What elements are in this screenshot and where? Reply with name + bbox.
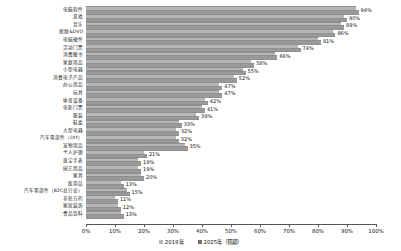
x-tick bbox=[231, 224, 232, 227]
bar-group: 42% bbox=[86, 97, 376, 105]
bar-row: 园艺用品19% bbox=[86, 165, 376, 173]
bar-row: 个人护理21% bbox=[86, 150, 376, 158]
category-label: 大型电器 bbox=[63, 128, 83, 133]
bar-row: 消费电子产品52% bbox=[86, 74, 376, 82]
category-label: 电影门票 bbox=[63, 106, 83, 111]
bar-row: 非处方药11% bbox=[86, 195, 376, 203]
category-label: 小型电器 bbox=[63, 68, 83, 73]
value-label: 86% bbox=[337, 31, 348, 36]
x-tick bbox=[289, 224, 290, 227]
bar-row: 汽车零部件（DIY）32% bbox=[86, 135, 376, 143]
bar-group: 35% bbox=[86, 142, 376, 150]
bar-group: 74% bbox=[86, 44, 376, 52]
bar-row: 电脑硬件81% bbox=[86, 36, 376, 44]
value-label: 21% bbox=[149, 152, 160, 157]
category-label: 家具 bbox=[73, 174, 83, 179]
x-tick-label: 50% bbox=[225, 228, 237, 234]
plot-area: 电脑软件94%游戏90%音乐89%视频&DVD86%电脑硬件81%活动门票74%… bbox=[86, 6, 376, 218]
bar-group: 15% bbox=[86, 188, 376, 196]
bar-row: 家庭用品58% bbox=[86, 59, 376, 67]
value-label: 39% bbox=[201, 114, 212, 119]
bar-group: 19% bbox=[86, 157, 376, 165]
value-label: 15% bbox=[132, 190, 143, 195]
bar-group: 19% bbox=[86, 165, 376, 173]
x-tick bbox=[86, 224, 87, 227]
value-label: 35% bbox=[190, 144, 201, 149]
category-label: 玩具 bbox=[73, 91, 83, 96]
category-label: 个人护理 bbox=[63, 151, 83, 156]
category-label: 食品饮料 bbox=[63, 212, 83, 217]
bar-group: 52% bbox=[86, 74, 376, 82]
x-tick bbox=[347, 224, 348, 227]
bar-group: 13% bbox=[86, 210, 376, 218]
bar-group: 81% bbox=[86, 36, 376, 44]
value-label: 47% bbox=[224, 84, 235, 89]
x-tick-label: 0% bbox=[82, 228, 91, 234]
category-label: 体育设备 bbox=[63, 98, 83, 103]
bar-group: 33% bbox=[86, 119, 376, 127]
value-label: 13% bbox=[126, 182, 137, 187]
category-label: 非处方药 bbox=[63, 197, 83, 202]
value-label: 32% bbox=[181, 137, 192, 142]
category-label: 汽车零部件（B2C总行业） bbox=[24, 189, 83, 194]
value-label: 66% bbox=[279, 54, 290, 59]
x-tick-label: 60% bbox=[254, 228, 266, 234]
bar-row: 游戏90% bbox=[86, 14, 376, 22]
bar-group: 47% bbox=[86, 89, 376, 97]
legend-swatch-icon bbox=[159, 240, 163, 244]
bar-group: 11% bbox=[86, 195, 376, 203]
bar-group: 20% bbox=[86, 172, 376, 180]
bar-row: 视频&DVD86% bbox=[86, 29, 376, 37]
category-label: 鞋类 bbox=[73, 121, 83, 126]
legend-item[interactable]: 2019年 bbox=[159, 238, 184, 246]
bar-row: 宠物用品35% bbox=[86, 142, 376, 150]
value-label: 55% bbox=[248, 69, 259, 74]
x-tick-label: 90% bbox=[341, 228, 353, 234]
x-tick bbox=[173, 224, 174, 227]
bar-2025 bbox=[86, 214, 124, 219]
bar-group: 12% bbox=[86, 203, 376, 211]
bar-group: 39% bbox=[86, 112, 376, 120]
bar-row: 鞋类33% bbox=[86, 119, 376, 127]
bar-group: 32% bbox=[86, 135, 376, 143]
legend-item[interactable]: 2025年（预期） bbox=[198, 238, 243, 246]
value-label: 41% bbox=[207, 107, 218, 112]
bar-chart: 电脑软件94%游戏90%音乐89%视频&DVD86%电脑硬件81%活动门票74%… bbox=[0, 0, 401, 251]
category-label: 游戏 bbox=[73, 15, 83, 20]
bar-row: 大型电器32% bbox=[86, 127, 376, 135]
value-label: 13% bbox=[126, 212, 137, 217]
legend-label: 2019年 bbox=[165, 238, 184, 246]
bar-row: 医用品13% bbox=[86, 180, 376, 188]
value-label: 52% bbox=[239, 76, 250, 81]
bar-row: 珠宝手表19% bbox=[86, 157, 376, 165]
x-tick bbox=[115, 224, 116, 227]
category-label: 电脑硬件 bbox=[63, 38, 83, 43]
x-tick bbox=[318, 224, 319, 227]
category-label: 医用品 bbox=[68, 181, 83, 186]
x-tick bbox=[376, 224, 377, 227]
bar-group: 21% bbox=[86, 150, 376, 158]
bar-row: 办公用品47% bbox=[86, 82, 376, 90]
bar-row: 体育设备42% bbox=[86, 97, 376, 105]
bar-row: 服装39% bbox=[86, 112, 376, 120]
bar-group: 66% bbox=[86, 51, 376, 59]
x-tick bbox=[260, 224, 261, 227]
x-tick-label: 40% bbox=[196, 228, 208, 234]
x-tick bbox=[202, 224, 203, 227]
value-label: 58% bbox=[256, 61, 267, 66]
bar-group: 89% bbox=[86, 21, 376, 29]
x-tick-label: 30% bbox=[167, 228, 179, 234]
bar-group: 90% bbox=[86, 14, 376, 22]
category-label: 珠宝手表 bbox=[63, 159, 83, 164]
value-label: 89% bbox=[346, 23, 357, 28]
bar-group: 32% bbox=[86, 127, 376, 135]
category-label: 消费电子产品 bbox=[53, 76, 83, 81]
x-tick-label: 70% bbox=[283, 228, 295, 234]
value-label: 81% bbox=[323, 39, 334, 44]
bar-group: 58% bbox=[86, 59, 376, 67]
value-label: 32% bbox=[181, 129, 192, 134]
x-tick-label: 10% bbox=[109, 228, 121, 234]
value-label: 94% bbox=[361, 8, 372, 13]
bar-row: 音乐89% bbox=[86, 21, 376, 29]
bar-group: 94% bbox=[86, 6, 376, 14]
